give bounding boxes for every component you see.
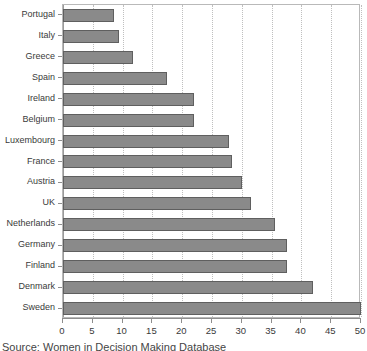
x-axis-tick-30 [241, 318, 242, 323]
bar-row [63, 277, 361, 298]
x-axis-label-20: 20 [176, 325, 187, 336]
x-axis-tick-0 [62, 318, 63, 323]
bar-luxembourg [63, 135, 229, 148]
bar-row [63, 235, 361, 256]
bar-row [63, 110, 361, 131]
y-axis: PortugalItalyGreeceSpainIrelandBelgiumLu… [0, 4, 62, 318]
y-axis-label-italy: Italy [38, 25, 55, 46]
x-axis-label-25: 25 [206, 325, 217, 336]
x-axis-label-15: 15 [146, 325, 157, 336]
bar-greece [63, 51, 133, 64]
y-axis-label-austria: Austria [27, 171, 55, 192]
y-axis-label-ireland: Ireland [27, 88, 55, 109]
x-axis-tick-5 [92, 318, 93, 323]
x-axis-label-0: 0 [59, 325, 64, 336]
bar-row [63, 26, 361, 47]
y-axis-label-sweden: Sweden [22, 297, 55, 318]
y-axis-label-greece: Greece [25, 46, 55, 67]
bar-row [63, 47, 361, 68]
bar-row [63, 298, 361, 319]
x-axis-tick-20 [181, 318, 182, 323]
bar-row [63, 193, 361, 214]
y-axis-label-luxembourg: Luxembourg [5, 130, 55, 151]
x-axis-tick-40 [300, 318, 301, 323]
bar-spain [63, 72, 167, 85]
y-axis-label-denmark: Denmark [18, 276, 55, 297]
bar-netherlands [63, 218, 275, 231]
bar-row [63, 214, 361, 235]
bar-row [63, 172, 361, 193]
x-axis-tick-10 [122, 318, 123, 323]
y-axis-label-portugal: Portugal [21, 4, 55, 25]
x-axis-tick-50 [360, 318, 361, 323]
x-axis-label-50: 50 [355, 325, 366, 336]
y-axis-label-spain: Spain [32, 67, 55, 88]
x-axis-tick-25 [211, 318, 212, 323]
bar-chart: PortugalItalyGreeceSpainIrelandBelgiumLu… [0, 0, 367, 351]
y-axis-label-netherlands: Netherlands [6, 213, 55, 234]
bar-series [63, 5, 359, 317]
x-axis-label-45: 45 [325, 325, 336, 336]
bar-sweden [63, 302, 361, 315]
x-axis-label-35: 35 [265, 325, 276, 336]
x-axis-label-40: 40 [295, 325, 306, 336]
y-axis-label-germany: Germany [18, 234, 55, 255]
bar-uk [63, 197, 251, 210]
bar-portugal [63, 9, 114, 22]
x-axis-tick-15 [151, 318, 152, 323]
bar-austria [63, 176, 242, 189]
y-axis-label-finland: Finland [25, 255, 55, 276]
bar-italy [63, 30, 119, 43]
x-axis-tick-35 [271, 318, 272, 323]
y-axis-label-belgium: Belgium [22, 109, 55, 130]
x-axis-tick-45 [330, 318, 331, 323]
plot-area [62, 4, 360, 318]
bar-belgium [63, 114, 194, 127]
gridline-50 [361, 5, 362, 317]
bar-row [63, 5, 361, 26]
y-axis-label-uk: UK [42, 192, 55, 213]
bar-finland [63, 260, 287, 273]
bar-row [63, 68, 361, 89]
x-axis-label-10: 10 [116, 325, 127, 336]
y-axis-label-france: France [27, 151, 55, 172]
bar-germany [63, 239, 287, 252]
x-axis-label-30: 30 [236, 325, 247, 336]
bar-row [63, 131, 361, 152]
bar-france [63, 155, 232, 168]
bar-row [63, 89, 361, 110]
bar-denmark [63, 281, 313, 294]
bar-row [63, 152, 361, 173]
x-axis-label-5: 5 [89, 325, 94, 336]
bar-ireland [63, 93, 194, 106]
source-note: Source: Women in Decision Making Databas… [2, 341, 226, 351]
bar-row [63, 256, 361, 277]
